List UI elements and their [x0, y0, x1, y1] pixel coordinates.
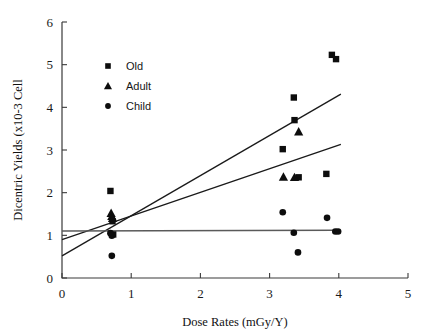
y-tick-label-4: 4 [47, 100, 54, 115]
y-tick-label-1: 1 [47, 228, 54, 243]
scatter-plot: 0123456012345Dose Rates (mGy/Y)Dicentric… [0, 0, 431, 335]
data-point-adult-5 [294, 127, 303, 135]
x-tick-label-3: 3 [266, 286, 273, 301]
legend-label-adult: Adult [126, 80, 151, 92]
data-point-old-3 [280, 146, 286, 152]
data-point-child-1 [108, 232, 115, 239]
data-point-adult-3 [279, 172, 288, 180]
data-point-old-0 [107, 188, 113, 194]
x-tick-label-5: 5 [405, 286, 412, 301]
data-point-old-9 [333, 56, 339, 62]
data-point-old-7 [323, 171, 329, 177]
y-tick-label-0: 0 [47, 271, 54, 286]
y-tick-label-5: 5 [47, 57, 54, 72]
fit-line-adult [62, 144, 341, 239]
legend-marker-adult [104, 82, 112, 89]
x-tick-label-0: 0 [59, 286, 66, 301]
x-tick-label-2: 2 [197, 286, 204, 301]
data-point-old-4 [291, 94, 297, 100]
data-point-child-5 [295, 249, 302, 256]
legend-marker-old [105, 63, 111, 69]
x-axis-title: Dose Rates (mGy/Y) [182, 315, 288, 329]
data-point-child-4 [290, 229, 297, 236]
legend-label-child: Child [126, 100, 151, 112]
data-point-old-5 [291, 117, 297, 123]
x-tick-label-1: 1 [128, 286, 135, 301]
legend-marker-child [105, 103, 111, 109]
y-tick-label-3: 3 [47, 143, 54, 158]
axis-frame [62, 22, 408, 278]
y-axis-title: Dicentric Yields (x10-3 Cell [11, 79, 25, 221]
legend-label-old: Old [126, 60, 143, 72]
y-tick-label-6: 6 [47, 15, 54, 30]
fit-line-child [62, 230, 338, 231]
chart-figure: 0123456012345Dose Rates (mGy/Y)Dicentric… [0, 0, 431, 335]
data-point-child-6 [324, 215, 331, 222]
data-point-child-3 [279, 209, 286, 216]
y-tick-label-2: 2 [47, 185, 54, 200]
data-point-child-8 [335, 228, 342, 235]
x-tick-label-4: 4 [336, 286, 343, 301]
data-point-child-2 [108, 252, 115, 259]
